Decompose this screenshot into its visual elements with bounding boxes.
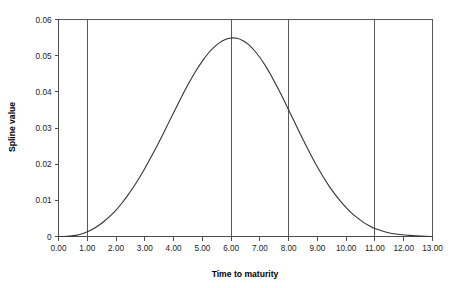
y-tick-label: 0 [47, 233, 52, 242]
x-tick-label: 10.00 [336, 244, 357, 253]
spline-value-curve [59, 38, 433, 237]
x-tick-label: 1.00 [79, 244, 95, 253]
y-axis-ticks: 00.010.020.030.040.050.06 [36, 16, 59, 242]
x-tick-label: 13.00 [422, 244, 443, 253]
chart-canvas: 0.001.002.003.004.005.006.007.008.009.00… [0, 0, 455, 288]
x-tick-label: 11.00 [365, 244, 385, 253]
x-tick-label: 12.00 [393, 244, 414, 253]
spline-chart: 0.001.002.003.004.005.006.007.008.009.00… [0, 0, 455, 288]
y-tick-label: 0.01 [36, 196, 52, 205]
y-tick-label: 0.03 [36, 124, 52, 133]
y-tick-label: 0.05 [36, 52, 52, 61]
x-tick-label: 8.00 [281, 244, 297, 253]
x-tick-label: 3.00 [137, 244, 153, 253]
plot-frame [59, 20, 433, 237]
x-axis-title: Time to maturity [212, 269, 279, 279]
x-tick-label: 5.00 [194, 244, 210, 253]
y-tick-label: 0.06 [36, 16, 52, 25]
x-tick-label: 0.00 [51, 244, 67, 253]
x-tick-label: 4.00 [166, 244, 182, 253]
x-tick-label: 2.00 [108, 244, 124, 253]
vertical-gridlines [87, 20, 375, 237]
x-tick-label: 7.00 [252, 244, 268, 253]
x-tick-label: 9.00 [309, 244, 325, 253]
y-tick-label: 0.02 [36, 160, 52, 169]
y-axis-title: Spline value [7, 102, 17, 152]
x-axis-ticks: 0.001.002.003.004.005.006.007.008.009.00… [51, 237, 444, 253]
x-tick-label: 6.00 [223, 244, 239, 253]
y-tick-label: 0.04 [36, 88, 52, 97]
